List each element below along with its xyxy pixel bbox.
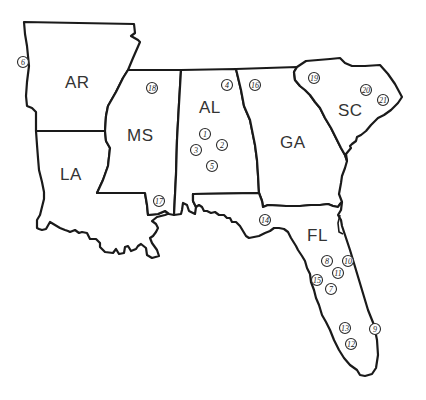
svg-text:17: 17	[155, 197, 164, 206]
southeast-us-map: AR MS AL GA SC LA FL 1 2 3 4 5 6 7 8 9 1…	[0, 0, 426, 400]
svg-text:12: 12	[347, 340, 355, 349]
svg-text:15: 15	[313, 276, 321, 285]
svg-text:3: 3	[193, 146, 198, 155]
svg-text:9: 9	[373, 325, 377, 334]
marker-11[interactable]: 11	[333, 268, 344, 279]
marker-2[interactable]: 2	[217, 140, 228, 151]
svg-text:20: 20	[362, 86, 370, 95]
svg-text:10: 10	[344, 257, 352, 266]
svg-text:21: 21	[379, 96, 387, 105]
state-label-ar: AR	[65, 73, 90, 92]
marker-7[interactable]: 7	[326, 284, 337, 295]
svg-text:8: 8	[325, 257, 329, 266]
marker-6[interactable]: 6	[18, 57, 29, 68]
marker-5[interactable]: 5	[207, 161, 218, 172]
svg-text:11: 11	[334, 269, 341, 278]
svg-text:2: 2	[220, 141, 224, 150]
svg-text:6: 6	[21, 58, 25, 67]
svg-text:19: 19	[310, 74, 318, 83]
svg-text:16: 16	[251, 81, 259, 90]
svg-text:4: 4	[225, 81, 229, 90]
marker-13[interactable]: 13	[340, 323, 351, 334]
marker-12[interactable]: 12	[346, 339, 357, 350]
marker-3[interactable]: 3	[191, 145, 202, 156]
marker-9[interactable]: 9	[370, 324, 381, 335]
marker-1[interactable]: 1	[200, 129, 211, 140]
marker-19[interactable]: 19	[309, 73, 320, 84]
marker-14[interactable]: 14	[260, 215, 271, 226]
state-label-ms: MS	[127, 126, 154, 145]
state-label-ga: GA	[280, 133, 306, 152]
marker-20[interactable]: 20	[361, 85, 372, 96]
state-label-la: LA	[60, 165, 82, 184]
marker-8[interactable]: 8	[322, 256, 333, 267]
svg-text:5: 5	[210, 162, 214, 171]
marker-4[interactable]: 4	[222, 80, 233, 91]
svg-text:18: 18	[148, 84, 156, 93]
marker-17[interactable]: 17	[154, 196, 165, 207]
svg-text:1: 1	[203, 130, 207, 139]
marker-15[interactable]: 15	[312, 275, 323, 286]
svg-text:14: 14	[261, 216, 269, 225]
marker-16[interactable]: 16	[250, 80, 261, 91]
state-label-fl: FL	[307, 226, 328, 245]
state-label-al: AL	[199, 98, 221, 117]
marker-18[interactable]: 18	[147, 83, 158, 94]
state-label-sc: SC	[338, 101, 363, 120]
marker-21[interactable]: 21	[378, 95, 389, 106]
svg-text:13: 13	[341, 324, 349, 333]
marker-10[interactable]: 10	[343, 256, 354, 267]
